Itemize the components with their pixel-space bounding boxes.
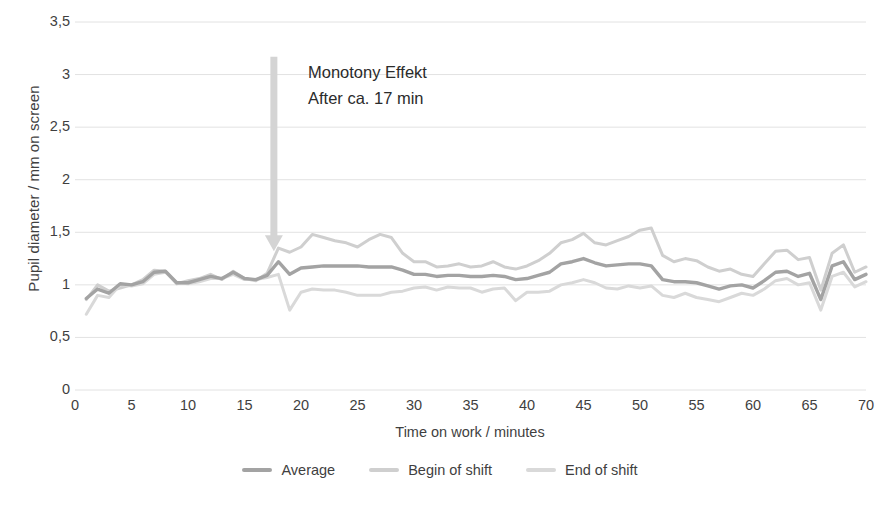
x-tick-label: 35: [451, 398, 491, 413]
legend-item[interactable]: End of shift: [526, 462, 638, 478]
x-tick-label: 30: [394, 398, 434, 413]
x-tick-label: 70: [846, 398, 880, 413]
x-tick-label: 20: [281, 398, 321, 413]
annotation-line-1: Monotony Effekt: [308, 60, 427, 86]
x-tick-label: 0: [55, 398, 95, 413]
x-tick-label: 10: [168, 398, 208, 413]
x-tick-label: 40: [507, 398, 547, 413]
x-tick-label: 15: [225, 398, 265, 413]
x-axis-tick-labels: 0510152025303540455055606570: [0, 398, 880, 420]
legend-swatch-icon: [369, 468, 399, 472]
grid-lines: [75, 22, 866, 390]
annotation-line-2: After ca. 17 min: [308, 86, 427, 112]
x-tick-label: 55: [677, 398, 717, 413]
monotony-effect-annotation: Monotony Effekt After ca. 17 min: [308, 60, 427, 111]
x-tick-label: 50: [620, 398, 660, 413]
legend-label: Average: [281, 462, 335, 478]
legend-swatch-icon: [526, 468, 556, 472]
legend-label: Begin of shift: [408, 462, 492, 478]
x-tick-label: 25: [338, 398, 378, 413]
legend-label: End of shift: [565, 462, 638, 478]
legend-item[interactable]: Begin of shift: [369, 462, 492, 478]
monotony-arrow-icon: [265, 57, 283, 252]
x-axis-title: Time on work / minutes: [75, 424, 865, 440]
x-tick-label: 65: [790, 398, 830, 413]
x-tick-label: 45: [564, 398, 604, 413]
x-tick-label: 60: [733, 398, 773, 413]
chart-legend: AverageBegin of shiftEnd of shift: [0, 462, 880, 478]
legend-item[interactable]: Average: [242, 462, 335, 478]
pupil-diameter-line-chart: Pupil diameter / mm on screen 00,511,522…: [0, 0, 880, 505]
x-tick-label: 5: [112, 398, 152, 413]
legend-swatch-icon: [242, 468, 272, 472]
